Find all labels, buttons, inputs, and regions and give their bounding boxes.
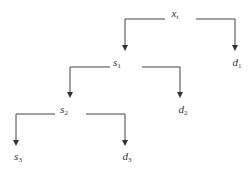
node-d1: d1: [233, 57, 242, 70]
node-d2: d2: [179, 104, 188, 117]
arrowhead-icon: [122, 140, 128, 146]
node-s3: s3: [14, 151, 22, 164]
node-d3-sub: 3: [128, 156, 132, 164]
arrowhead-icon: [67, 92, 73, 98]
node-s2-sub: 2: [64, 109, 68, 117]
arrowhead-icon: [177, 92, 183, 98]
edge-s1-s2: [70, 67, 110, 96]
arrowhead-icon: [13, 140, 19, 146]
node-s2: s2: [60, 104, 68, 117]
arrowhead-icon: [122, 45, 128, 51]
node-s1: s1: [113, 57, 121, 70]
arrowhead-icon: [232, 45, 238, 51]
node-s3-sub: 3: [18, 156, 22, 164]
node-s1-sub: 1: [117, 62, 121, 70]
node-xt: xt: [172, 8, 179, 21]
edge-s2-d3: [86, 114, 125, 144]
node-d1-sub: 1: [238, 62, 242, 70]
node-xt-sub: t: [176, 13, 178, 21]
edge-xt-d1: [196, 19, 235, 49]
edge-s2-s3: [16, 114, 55, 144]
node-d2-sub: 2: [184, 109, 188, 117]
node-d3: d3: [123, 151, 132, 164]
edge-xt-s1: [125, 19, 165, 49]
tree-connectors: [0, 0, 251, 169]
edge-s1-d2: [142, 67, 180, 96]
